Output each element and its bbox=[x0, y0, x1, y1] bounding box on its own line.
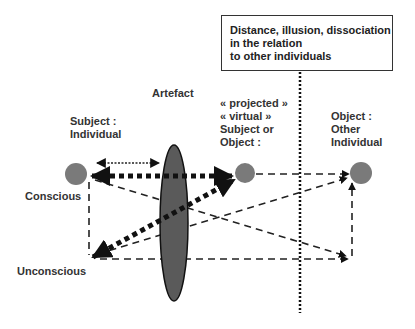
node-subject bbox=[65, 163, 87, 185]
note-box: Distance, illusion, dissociation in the … bbox=[221, 15, 393, 71]
edge-conscious-to-bottom-right bbox=[95, 180, 346, 256]
label-unconscious: Unconscious bbox=[17, 265, 86, 278]
edge-unconscious-to-object bbox=[98, 178, 347, 254]
label-object: Object : Other Individual bbox=[331, 110, 382, 149]
label-conscious: Conscious bbox=[25, 190, 81, 203]
node-projected bbox=[235, 163, 255, 183]
node-object bbox=[350, 162, 372, 184]
label-projected: « projected » « virtual » Subject or Obj… bbox=[220, 97, 288, 149]
label-subject: Subject : Individual bbox=[70, 115, 121, 141]
artefact-ellipse bbox=[160, 145, 188, 301]
note-text: Distance, illusion, dissociation in the … bbox=[230, 24, 391, 63]
label-artefact: Artefact bbox=[152, 87, 194, 100]
